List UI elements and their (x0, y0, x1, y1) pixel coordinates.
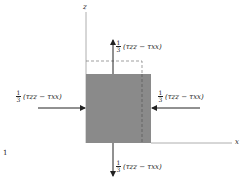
z-axis-label: z (83, 3, 87, 11)
force-label-left: 13 (τzz − τxx) (16, 90, 62, 103)
force-label-top: 13 (τzz − τxx) (116, 40, 162, 53)
force-label-right: 13 (τzz − τxx) (158, 90, 204, 103)
x-axis-label: x (235, 138, 239, 146)
margin-mark: 1 (3, 149, 7, 157)
force-label-bottom: 13 (τzz − τxx) (116, 160, 162, 173)
material-block (86, 74, 151, 143)
